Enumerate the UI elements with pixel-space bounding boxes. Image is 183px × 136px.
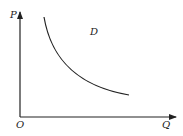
demand-curve (44, 17, 129, 95)
y-axis-label: P (9, 9, 17, 20)
curve-label: D (89, 26, 98, 37)
demand-diagram: P O Q D (0, 0, 183, 136)
x-axis-label: Q (162, 119, 170, 130)
origin-label: O (16, 119, 24, 130)
